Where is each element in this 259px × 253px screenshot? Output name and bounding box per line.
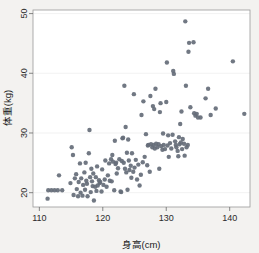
scatter-point — [148, 170, 152, 174]
scatter-point — [89, 167, 93, 171]
scatter-point — [103, 177, 107, 181]
scatter-point — [198, 115, 202, 119]
scatter-point — [76, 194, 80, 198]
scatter-point — [83, 187, 87, 191]
scatter-point — [179, 109, 183, 113]
scatter-point — [125, 150, 129, 154]
scatter-point — [80, 193, 84, 197]
scatter-point — [158, 101, 162, 105]
y-tick-label: 50 — [19, 9, 29, 19]
scatter-point — [109, 179, 113, 183]
scatter-point — [134, 158, 138, 162]
scatter-point — [170, 133, 174, 137]
scatter-point — [166, 133, 170, 137]
scatter-point — [91, 171, 95, 175]
scatter-point — [162, 143, 166, 147]
scatter-point — [137, 183, 141, 187]
scatter-point — [114, 161, 118, 165]
scatter-point — [203, 96, 207, 100]
scatter-point — [60, 188, 64, 192]
scatter-point — [90, 179, 94, 183]
scatter-point — [122, 84, 126, 88]
x-tick-label: 110 — [32, 213, 46, 223]
scatter-point — [94, 189, 98, 193]
scatter-point — [76, 180, 80, 184]
scatter-point — [79, 176, 83, 180]
scatter-point — [100, 167, 104, 171]
scatter-point — [123, 125, 127, 129]
scatter-point — [125, 187, 129, 191]
scatter-point — [206, 87, 210, 91]
scatter-point — [182, 142, 186, 146]
scatter-point — [57, 173, 61, 177]
scatter-point — [176, 154, 180, 158]
scatter-point — [89, 190, 93, 194]
scatter-point — [92, 198, 96, 202]
scatter-point — [87, 128, 91, 132]
scatter-point — [186, 50, 190, 54]
scatter-point — [181, 137, 185, 141]
scatter-point — [188, 105, 192, 109]
scatter-point — [182, 153, 186, 157]
scatter-point — [71, 153, 75, 157]
scatter-point — [78, 161, 82, 165]
scatter-point — [148, 94, 152, 98]
x-tick-label: 130 — [159, 213, 174, 223]
scatter-point — [163, 147, 167, 151]
scatter-point — [119, 190, 123, 194]
scatter-point — [214, 106, 218, 110]
scatter-point — [70, 145, 74, 149]
scatter-point — [186, 143, 190, 147]
scatter-point — [85, 182, 89, 186]
scatter-point — [157, 167, 161, 171]
scatter-point — [126, 137, 130, 141]
scatter-point — [107, 161, 111, 165]
scatter-point — [112, 188, 116, 192]
scatter-point — [75, 187, 79, 191]
scatter-point — [177, 135, 181, 139]
y-axis-title: 体重(kg) — [2, 90, 13, 126]
scatter-point — [144, 132, 148, 136]
scatter-point — [164, 100, 168, 104]
scatter-point — [122, 161, 126, 165]
scatter-point — [191, 40, 195, 44]
y-tick-label: 30 — [19, 128, 29, 138]
scatter-point — [121, 136, 125, 140]
scatter-point — [132, 165, 136, 169]
scatter-point — [85, 194, 89, 198]
scatter-point — [153, 87, 157, 91]
scatter-point — [131, 170, 135, 174]
scatter-point — [152, 107, 156, 111]
scatter-point — [139, 113, 143, 117]
scatter-point — [180, 147, 184, 151]
scatter-point — [139, 173, 143, 177]
scatter-point — [73, 176, 77, 180]
scatter-point — [141, 99, 145, 103]
scatter-point — [127, 158, 131, 162]
scatter-point — [231, 59, 235, 63]
scatter-point — [74, 172, 78, 176]
x-tick-label: 120 — [95, 213, 110, 223]
scatter-point — [169, 146, 173, 150]
scatter-point — [87, 151, 91, 155]
x-axis-title: 身高(cm) — [122, 239, 161, 250]
scatter-point — [142, 155, 146, 159]
scatter-point — [184, 84, 188, 88]
scatter-point — [110, 153, 114, 157]
scatter-point — [88, 175, 92, 179]
scatter-point — [158, 110, 162, 114]
scatter-point — [81, 183, 85, 187]
scatter-point — [208, 113, 212, 117]
scatter-point — [145, 163, 149, 167]
scatter-point — [113, 139, 117, 143]
scatter-point — [56, 188, 60, 192]
scatter-point — [99, 189, 103, 193]
scatter-point — [168, 141, 172, 145]
scatter-point — [115, 171, 119, 175]
scatter-point — [83, 161, 87, 165]
scatter-point — [132, 92, 136, 96]
scatter-point — [165, 60, 169, 64]
scatter-point — [161, 131, 165, 135]
scatter-point — [68, 181, 72, 185]
scatter-point — [103, 158, 107, 162]
